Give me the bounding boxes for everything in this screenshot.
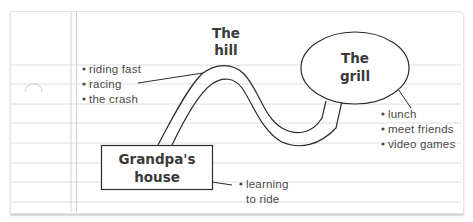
grandpa-note-item: learning — [246, 178, 289, 190]
grill-title-line-1: The — [341, 50, 369, 66]
grandpa-title-line-1: Grandpa's — [118, 151, 195, 167]
hill-note-item: the crash — [89, 93, 138, 105]
grandpa-title-line-2: house — [134, 169, 180, 185]
hill-title-line-1: The — [212, 25, 240, 41]
grill-title-line-2: grill — [340, 68, 370, 84]
punch-hole-icon — [25, 84, 42, 93]
grandpa-note-item: to ride — [246, 193, 279, 205]
grandpa-notes-list: learning to ride — [239, 178, 288, 205]
grill-notes-list: lunch meet friends video games — [381, 108, 455, 150]
hill-note-item: racing — [89, 78, 122, 90]
connector-grill-notes — [398, 89, 411, 108]
grill-note-item: lunch — [388, 108, 417, 120]
hill-title-line-2: hill — [214, 42, 238, 58]
grill-note-item: video games — [388, 138, 455, 150]
hill-note-item: riding fast — [89, 63, 142, 75]
grill-note-item: meet friends — [388, 123, 454, 135]
story-map-diagram: The grill The hill Grandpa's house ridin… — [0, 0, 473, 222]
connector-hill-notes — [138, 73, 203, 83]
